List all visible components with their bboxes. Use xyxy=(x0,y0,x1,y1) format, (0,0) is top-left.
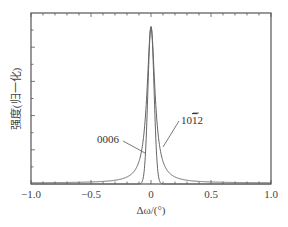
y-axis-title: 强度(归一化) xyxy=(9,68,23,131)
x-tick-label: 1.0 xyxy=(264,188,278,200)
x-tick-label: 0 xyxy=(148,188,154,200)
annotation-1012-leader xyxy=(163,121,179,147)
annotation-1012: 1012 xyxy=(181,114,203,126)
annotation-0006: 0006 xyxy=(97,133,120,145)
x-tick-label: 0.5 xyxy=(204,188,218,200)
x-tick-label: −1.0 xyxy=(21,188,41,200)
chart-canvas: −1.0 −0.5 0 0.5 1.0 Δω/(°) 强度(归一化) 0006 … xyxy=(0,0,288,227)
annotation-0006-leader xyxy=(123,141,145,153)
x-tick-label: −0.5 xyxy=(81,188,101,200)
series-0006-curve xyxy=(31,27,271,184)
x-axis-title: Δω/(°) xyxy=(136,204,165,217)
x-axis-ticks xyxy=(31,13,271,184)
plot-frame xyxy=(31,13,271,184)
series-1012-curve xyxy=(31,27,271,183)
